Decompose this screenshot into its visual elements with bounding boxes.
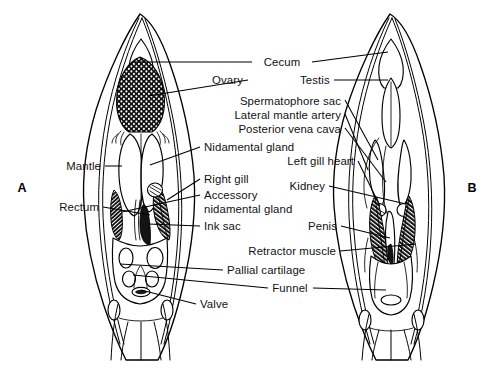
funnel-aperture-left-a xyxy=(123,271,136,287)
label-penis: Penis xyxy=(308,220,337,232)
pallial-cartilage-left-b xyxy=(359,310,371,330)
label-ovary: Ovary xyxy=(212,74,243,86)
pallial-cartilage-right-a xyxy=(161,300,173,320)
label-funnel: Funnel xyxy=(272,282,307,294)
label-valve: Valve xyxy=(200,298,228,310)
label-left-gill-heart: Left gill heart xyxy=(287,155,354,167)
label-spermatophore-sac: Spermatophore sac xyxy=(240,95,341,107)
label-mantle: Mantle xyxy=(66,160,101,172)
label-right-gill: Right gill xyxy=(204,173,249,185)
funnel-aperture-right-a xyxy=(146,271,159,287)
label-retractor-muscle: Retractor muscle xyxy=(248,245,336,257)
panel-marker-b: B xyxy=(467,181,476,195)
label-cecum: Cecum xyxy=(264,56,301,68)
label-posterior-vena-cava: Posterior vena cava xyxy=(238,123,341,135)
panel-marker-a: A xyxy=(17,181,26,195)
label-accessory-nidamental-gland-line1: Accessory xyxy=(204,189,258,201)
anatomy-figure: Cecum Ovary Testis Spermatophore sac Lat… xyxy=(0,0,496,369)
label-lateral-mantle-artery: Lateral mantle artery xyxy=(234,109,341,121)
label-rectum: Rectum xyxy=(59,201,99,213)
label-kidney: Kidney xyxy=(290,180,326,192)
pallial-cartilage-right-b xyxy=(412,310,424,330)
label-pallial-cartilage: Pallial cartilage xyxy=(227,264,305,276)
label-ink-sac: Ink sac xyxy=(204,220,241,232)
label-testis: Testis xyxy=(300,74,330,86)
funnel-aperture-b xyxy=(381,295,401,305)
funnel-b xyxy=(370,256,413,315)
label-accessory-nidamental-gland-line2: nidamental gland xyxy=(204,203,292,215)
pallial-cartilage-left-a xyxy=(108,300,120,320)
label-nidamental-gland: Nidamental gland xyxy=(204,141,294,153)
anatomy-diagram-canvas: Cecum Ovary Testis Spermatophore sac Lat… xyxy=(0,0,496,369)
